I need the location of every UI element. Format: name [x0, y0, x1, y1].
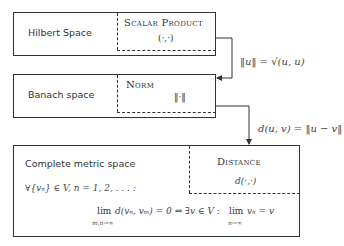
norm-from-scalar-product-formula: ‖u‖ = √(u, u)	[240, 56, 305, 67]
arrow-hilbert-to-banach	[216, 38, 232, 78]
arrow-banach-to-metric	[216, 106, 249, 144]
distance-from-norm-formula: d(u, v) = ‖u − v‖	[258, 123, 342, 134]
